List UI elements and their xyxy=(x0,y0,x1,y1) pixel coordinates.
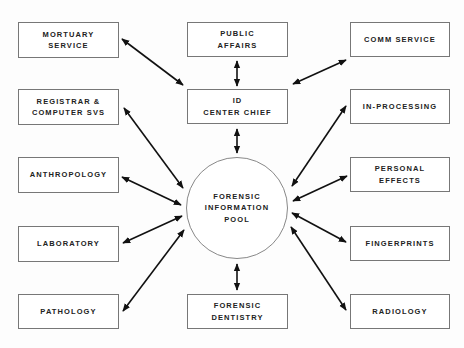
arrow-registrar-pool xyxy=(124,108,183,188)
node-registrar-computer-svs: REGISTRAR & COMPUTER SVS xyxy=(18,89,119,125)
arrow-laboratory-pool xyxy=(123,216,182,243)
node-label: REGISTRAR & COMPUTER SVS xyxy=(32,96,105,119)
node-public-affairs: PUBLIC AFFAIRS xyxy=(187,22,288,57)
arrow-anthropology-pool xyxy=(122,177,181,205)
node-label: LABORATORY xyxy=(37,238,100,250)
node-laboratory: LABORATORY xyxy=(18,226,119,262)
node-pathology: PATHOLOGY xyxy=(18,294,119,329)
node-label: FORENSIC DENTISTRY xyxy=(211,300,263,323)
org-diagram: MORTUARY SERVICE REGISTRAR & COMPUTER SV… xyxy=(0,0,464,348)
node-comm-service: COMM SERVICE xyxy=(350,22,450,57)
node-label: PERSONAL EFFECTS xyxy=(375,163,425,186)
node-radiology: RADIOLOGY xyxy=(350,294,450,329)
node-forensic-dentistry: FORENSIC DENTISTRY xyxy=(187,294,288,329)
node-label: MORTUARY SERVICE xyxy=(43,29,95,52)
node-anthropology: ANTHROPOLOGY xyxy=(18,157,119,193)
node-label: IN-PROCESSING xyxy=(363,101,437,113)
node-label: PUBLIC AFFAIRS xyxy=(218,28,258,51)
arrow-pathology-pool xyxy=(123,230,184,311)
node-personal-effects: PERSONAL EFFECTS xyxy=(350,157,450,192)
arrow-inprocessing-pool xyxy=(292,106,346,186)
center-label: FORENSIC INFORMATION POOL xyxy=(205,191,269,226)
arrow-personaleffects-pool xyxy=(293,176,347,201)
arrow-comm-idchief xyxy=(293,60,346,84)
arrow-fingerprints-pool xyxy=(292,213,346,242)
node-label: ID CENTER CHIEF xyxy=(203,95,272,118)
node-in-processing: IN-PROCESSING xyxy=(350,89,450,124)
node-mortuary-service: MORTUARY SERVICE xyxy=(18,22,119,58)
node-fingerprints: FINGERPRINTS xyxy=(350,226,450,261)
node-label: RADIOLOGY xyxy=(372,306,427,318)
node-id-center-chief: ID CENTER CHIEF xyxy=(187,89,288,124)
node-label: ANTHROPOLOGY xyxy=(30,169,107,181)
node-forensic-information-pool: FORENSIC INFORMATION POOL xyxy=(186,157,288,259)
node-label: PATHOLOGY xyxy=(40,306,96,318)
node-label: COMM SERVICE xyxy=(364,34,436,46)
node-label: FINGERPRINTS xyxy=(365,238,434,250)
arrow-radiology-pool xyxy=(291,227,346,310)
arrow-mortuary-idchief xyxy=(122,39,183,85)
